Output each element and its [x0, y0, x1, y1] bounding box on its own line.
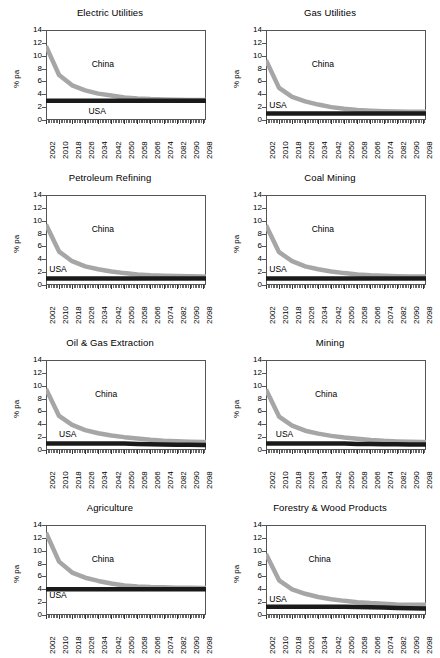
x-axis-label: 2090: [413, 141, 421, 159]
x-axis-label: 2042: [115, 141, 123, 159]
x-axis-label: 2010: [62, 306, 70, 324]
y-axis-label: 4: [240, 585, 262, 593]
x-axis-label: 2082: [400, 306, 408, 324]
y-axis-label: 6: [20, 407, 42, 415]
x-axis-label: 2058: [361, 471, 369, 489]
chart-panel: Coal Mining% pa0246810121420022010201820…: [220, 165, 440, 330]
x-axis-label: 2066: [374, 471, 382, 489]
plot-area: % pa024681012142002201020182026203420422…: [0, 0, 220, 165]
x-axis-label: 2042: [115, 636, 123, 654]
y-axis-label: 12: [20, 534, 42, 542]
x-axis-label: 2090: [193, 306, 201, 324]
x-axis-label: 2066: [374, 306, 382, 324]
x-axis-label: 2034: [101, 636, 109, 654]
x-axis-label: 2082: [180, 471, 188, 489]
x-axis-label: 2098: [206, 141, 214, 159]
x-axis-label: 2090: [413, 471, 421, 489]
x-axis-label: 2010: [62, 636, 70, 654]
series-line-china: [46, 46, 206, 100]
x-axis-label: 2098: [206, 471, 214, 489]
plot-area: % pa024681012142002201020182026203420422…: [0, 165, 220, 330]
x-axis-label: 2042: [335, 636, 343, 654]
y-axis-label: 14: [20, 521, 42, 529]
y-axis-label: 0: [240, 611, 262, 619]
plot-area: % pa024681012142002201020182026203420422…: [0, 495, 220, 658]
x-axis-label: 2002: [49, 141, 57, 159]
x-axis-label: 2026: [88, 636, 96, 654]
series-line-usa: [46, 444, 206, 445]
x-axis-label: 2034: [101, 306, 109, 324]
x-axis-labels: 2002201020182026203420422050205820662074…: [46, 455, 206, 493]
plot-area: % pa024681012142002201020182026203420422…: [220, 330, 440, 495]
x-axis-label: 2090: [193, 141, 201, 159]
x-axis-label: 2042: [335, 306, 343, 324]
x-axis-label: 2058: [361, 306, 369, 324]
plot-area: % pa024681012142002201020182026203420422…: [220, 0, 440, 165]
x-axis-label: 2042: [115, 306, 123, 324]
x-axis-label: 2074: [387, 471, 395, 489]
annotation-china: China: [92, 60, 114, 69]
x-axis-label: 2074: [387, 141, 395, 159]
y-axis-label: 2: [20, 103, 42, 111]
y-axis-label: 4: [20, 90, 42, 98]
x-axis-label: 2018: [295, 141, 303, 159]
x-axis-label: 2066: [154, 141, 162, 159]
x-axis-label: 2018: [75, 141, 83, 159]
x-axis-labels: 2002201020182026203420422050205820662074…: [46, 125, 206, 163]
series-line-china: [266, 554, 426, 605]
x-axis-labels: 2002201020182026203420422050205820662074…: [266, 620, 426, 658]
x-axis-labels: 2002201020182026203420422050205820662074…: [46, 620, 206, 658]
y-axis-label: 4: [20, 255, 42, 263]
x-axis-label: 2050: [348, 306, 356, 324]
x-axis-ticks: [46, 120, 206, 124]
y-axis-label: 8: [240, 230, 262, 238]
x-axis-labels: 2002201020182026203420422050205820662074…: [266, 125, 426, 163]
y-axis-label: 12: [240, 369, 262, 377]
y-axis-label: 4: [240, 90, 262, 98]
y-axis-label: 2: [20, 598, 42, 606]
y-axis-label: 0: [20, 446, 42, 454]
chart-panel: Mining% pa024681012142002201020182026203…: [220, 330, 440, 495]
x-axis-label: 2010: [282, 306, 290, 324]
y-axis-label: 8: [20, 560, 42, 568]
y-axis-label: 12: [240, 204, 262, 212]
x-axis-label: 2034: [321, 471, 329, 489]
y-axis-label: 4: [240, 420, 262, 428]
y-axis-label: 14: [240, 191, 262, 199]
y-axis-label: 10: [240, 217, 262, 225]
series-container: [266, 30, 426, 120]
x-axis-label: 2074: [387, 636, 395, 654]
series-line-china: [46, 533, 206, 588]
x-axis-label: 2098: [426, 636, 434, 654]
x-axis-ticks: [266, 120, 426, 124]
x-axis-label: 2098: [426, 306, 434, 324]
y-axis-label: 0: [240, 446, 262, 454]
x-axis-label: 2058: [141, 141, 149, 159]
annotation-china: China: [92, 225, 114, 234]
x-axis-label: 2050: [128, 636, 136, 654]
y-axis-label: 4: [240, 255, 262, 263]
y-axis-label: 14: [240, 521, 262, 529]
x-axis-label: 2002: [269, 306, 277, 324]
chart-panel: Oil & Gas Extraction% pa0246810121420022…: [0, 330, 220, 495]
x-axis-label: 2018: [295, 471, 303, 489]
chart-panel: Petroleum Refining% pa024681012142002201…: [0, 165, 220, 330]
annotation-usa: USA: [49, 591, 66, 600]
x-axis-label: 2082: [400, 636, 408, 654]
x-axis-labels: 2002201020182026203420422050205820662074…: [266, 455, 426, 493]
x-axis-label: 2090: [413, 636, 421, 654]
y-axis-label: 10: [240, 382, 262, 390]
y-axis-label: 10: [20, 547, 42, 555]
y-axis-label: 12: [240, 39, 262, 47]
y-axis-label: 10: [240, 52, 262, 60]
y-axis-label: 14: [240, 356, 262, 364]
x-axis-label: 2026: [308, 141, 316, 159]
y-axis-label: 8: [240, 560, 262, 568]
series-line-china: [266, 60, 426, 112]
x-axis-label: 2002: [49, 471, 57, 489]
x-axis-label: 2050: [128, 141, 136, 159]
x-axis-label: 2058: [361, 636, 369, 654]
y-axis-label: 2: [240, 433, 262, 441]
x-axis-label: 2034: [101, 141, 109, 159]
series-container: [46, 195, 206, 285]
